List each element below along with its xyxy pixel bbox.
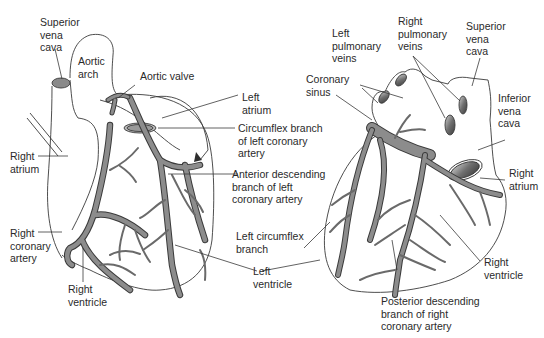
label-left-atrium: Left atrium (242, 91, 271, 116)
label-aortic-arch: Aortic arch (78, 55, 105, 80)
label-left-pulmonary-veins: Left pulmonary veins (332, 27, 381, 65)
label-right-coronary-artery: Right coronary artery (10, 227, 51, 265)
label-posterior-descending-branch: Posterior descending branch of right cor… (381, 295, 480, 333)
label-inferior-vena-cava: Inferior vena cava (498, 92, 531, 130)
label-right-atrium-anterior: Right atrium (10, 150, 39, 175)
label-left-ventricle: Left ventricle (253, 265, 292, 290)
label-left-circumflex-branch: Left circumflex branch (236, 230, 304, 255)
posterior-coronary-vessels (330, 115, 500, 295)
label-right-atrium-posterior: Right atrium (509, 167, 538, 192)
label-aortic-valve: Aortic valve (140, 70, 194, 83)
coronary-anatomy-figure: Superior vena cava Aortic arch Aortic va… (0, 0, 544, 338)
posterior-heart-drawing (324, 69, 506, 292)
label-right-ventricle-anterior: Right ventricle (68, 283, 107, 308)
left-pulmonary-vein-opening-icon (377, 89, 392, 105)
right-pulmonary-vein-opening-icon (445, 115, 455, 135)
label-superior-vena-cava-posterior: Superior vena cava (466, 20, 506, 58)
left-pulmonary-vein-opening-icon (393, 72, 408, 88)
label-anterior-descending-branch: Anterior descending branch of left coron… (232, 168, 325, 206)
label-coronary-sinus: Coronary sinus (306, 73, 349, 98)
label-circumflex-branch: Circumflex branch of left coronary arter… (238, 122, 323, 160)
svc-opening-icon (52, 78, 70, 88)
label-right-ventricle-posterior: Right ventricle (484, 256, 523, 281)
right-pulmonary-vein-opening-icon (459, 96, 467, 114)
label-superior-vena-cava-anterior: Superior vena cava (40, 16, 80, 54)
label-right-pulmonary-veins: Right pulmonary veins (398, 15, 447, 53)
